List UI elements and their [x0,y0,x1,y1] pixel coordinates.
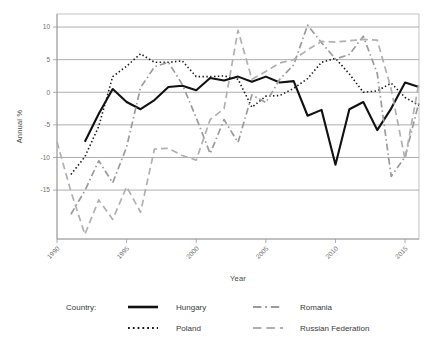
legend-title: Country: [66,303,96,312]
legend-label-romania: Romania [300,303,333,312]
chart-container: 1050-5-10-15Annual %19901995200020052010… [0,0,433,342]
x-tick-label-2010: 2010 [324,244,339,259]
series-line-russian-federation [57,30,419,234]
y-tick-label--10: -10 [41,154,51,161]
y-axis-title: Annual % [15,110,24,144]
x-tick-label-2000: 2000 [185,244,200,259]
legend-label-poland: Poland [176,324,201,333]
y-tick-label-5: 5 [46,56,50,63]
plot-frame [57,14,419,239]
y-tick-label-0: 0 [46,89,50,96]
legend-label-hungary: Hungary [176,303,206,312]
x-axis-title: Year [230,274,246,283]
x-tick-label-2005: 2005 [254,244,269,259]
legend-label-russian-federation: Russian Federation [300,324,369,333]
x-tick-label-1995: 1995 [115,244,130,259]
y-tick-label--5: -5 [44,121,50,128]
x-tick-label-2015: 2015 [394,244,409,259]
x-tick-label-1990: 1990 [46,244,61,259]
series-line-poland [71,54,419,175]
y-tick-label-10: 10 [43,23,51,30]
line-chart: 1050-5-10-15Annual %19901995200020052010… [0,0,433,342]
y-tick-label--15: -15 [41,186,51,193]
series-line-hungary [85,77,419,165]
